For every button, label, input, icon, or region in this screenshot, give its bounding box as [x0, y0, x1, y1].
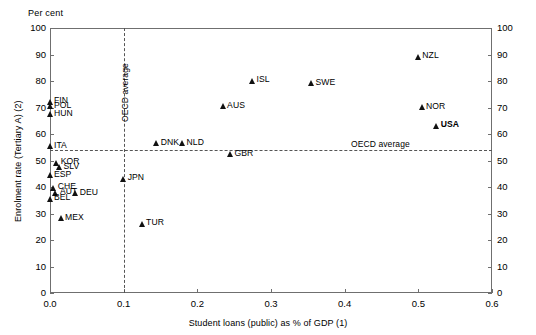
scatter-chart: Per cent Enrolment rate (Tertiary A) (2)… — [0, 0, 536, 335]
triangle-marker-icon — [179, 140, 185, 146]
triangle-marker-icon — [220, 103, 226, 109]
plot-area — [50, 28, 492, 293]
y-tick-mark-right-0 — [488, 293, 492, 294]
y-tick-label-left-40: 40 — [20, 181, 46, 192]
x-tick-mark-0.4 — [345, 289, 346, 293]
y-tick-label-left-50: 50 — [20, 155, 46, 166]
data-point-label: DNK — [161, 137, 179, 147]
y-tick-mark-left-10 — [50, 267, 54, 268]
y-tick-label-left-20: 20 — [20, 234, 46, 245]
oecd-average-vertical-label: OECD average — [120, 63, 130, 122]
y-tick-mark-right-30 — [488, 214, 492, 215]
y-tick-mark-left-100 — [50, 28, 54, 29]
data-point-label: HUN — [54, 108, 73, 118]
x-tick-mark-0.3 — [271, 289, 272, 293]
y-tick-label-left-80: 80 — [20, 75, 46, 86]
data-point-label: ESP — [54, 169, 71, 179]
triangle-marker-icon — [419, 104, 425, 110]
triangle-marker-icon — [153, 140, 159, 146]
triangle-marker-icon — [120, 176, 126, 182]
y-tick-label-left-60: 60 — [20, 128, 46, 139]
data-point-label: USA — [441, 119, 459, 129]
y-tick-mark-right-10 — [488, 267, 492, 268]
triangle-marker-icon — [47, 103, 53, 109]
y-tick-label-right-90: 90 — [497, 49, 523, 60]
y-tick-label-left-70: 70 — [20, 102, 46, 113]
y-tick-label-right-100: 100 — [497, 22, 523, 33]
triangle-marker-icon — [227, 151, 233, 157]
x-tick-label-0.0: 0.0 — [35, 298, 65, 309]
triangle-marker-icon — [415, 54, 421, 60]
y-tick-mark-right-60 — [488, 134, 492, 135]
data-point-label: TUR — [146, 217, 164, 227]
y-tick-label-right-60: 60 — [497, 128, 523, 139]
y-tick-mark-left-30 — [50, 214, 54, 215]
y-tick-mark-right-50 — [488, 161, 492, 162]
data-point-label: AUS — [227, 100, 245, 110]
y-tick-label-right-50: 50 — [497, 155, 523, 166]
y-tick-mark-right-40 — [488, 187, 492, 188]
y-tick-mark-left-80 — [50, 81, 54, 82]
data-point-label: NLD — [187, 137, 204, 147]
triangle-marker-icon — [433, 123, 439, 129]
triangle-marker-icon — [249, 78, 255, 84]
triangle-marker-icon — [47, 196, 53, 202]
oecd-average-horizontal-label: OECD average — [351, 139, 410, 149]
y-tick-label-left-10: 10 — [20, 261, 46, 272]
y-tick-label-left-0: 0 — [20, 287, 46, 298]
data-point-label: SWE — [316, 77, 336, 87]
x-tick-label-0.4: 0.4 — [330, 298, 360, 309]
y-tick-mark-right-20 — [488, 240, 492, 241]
data-point-label: BEL — [54, 192, 70, 202]
oecd-average-horizontal — [50, 150, 492, 151]
y-tick-mark-left-60 — [50, 134, 54, 135]
data-point-label: NOR — [426, 101, 445, 111]
data-point-label: ISL — [257, 74, 270, 84]
y-tick-mark-right-70 — [488, 108, 492, 109]
triangle-marker-icon — [47, 111, 53, 117]
y-tick-label-right-0: 0 — [497, 287, 523, 298]
x-tick-mark-0.5 — [418, 289, 419, 293]
y-tick-label-right-80: 80 — [497, 75, 523, 86]
x-tick-mark-0.0 — [50, 289, 51, 293]
triangle-marker-icon — [47, 172, 53, 178]
triangle-marker-icon — [47, 143, 53, 149]
x-tick-label-0.1: 0.1 — [109, 298, 139, 309]
x-axis-title: Student loans (public) as % of GDP (1) — [0, 318, 536, 328]
data-point-label: GBR — [234, 148, 253, 158]
y-tick-mark-right-100 — [488, 28, 492, 29]
x-tick-label-0.5: 0.5 — [403, 298, 433, 309]
y-tick-label-left-90: 90 — [20, 49, 46, 60]
triangle-marker-icon — [308, 80, 314, 86]
y-tick-label-right-30: 30 — [497, 208, 523, 219]
data-point-label: NZL — [422, 50, 438, 60]
x-tick-label-0.6: 0.6 — [477, 298, 507, 309]
y-tick-mark-left-0 — [50, 293, 54, 294]
x-tick-label-0.2: 0.2 — [182, 298, 212, 309]
y-axis-unit-label: Per cent — [28, 8, 63, 18]
data-point-label: DEU — [80, 187, 98, 197]
x-tick-mark-0.6 — [492, 289, 493, 293]
y-tick-label-right-70: 70 — [497, 102, 523, 113]
y-tick-label-right-10: 10 — [497, 261, 523, 272]
y-tick-label-left-30: 30 — [20, 208, 46, 219]
data-point-label: JPN — [128, 172, 144, 182]
y-tick-label-right-40: 40 — [497, 181, 523, 192]
y-tick-label-right-20: 20 — [497, 234, 523, 245]
y-tick-mark-left-20 — [50, 240, 54, 241]
triangle-marker-icon — [139, 221, 145, 227]
y-tick-mark-right-90 — [488, 55, 492, 56]
data-point-label: MEX — [65, 212, 84, 222]
x-tick-label-0.3: 0.3 — [256, 298, 286, 309]
x-tick-mark-0.2 — [197, 289, 198, 293]
triangle-marker-icon — [58, 215, 64, 221]
y-tick-mark-right-80 — [488, 81, 492, 82]
triangle-marker-icon — [72, 190, 78, 196]
y-tick-label-left-100: 100 — [20, 22, 46, 33]
y-tick-mark-left-90 — [50, 55, 54, 56]
data-point-label: ITA — [54, 140, 67, 150]
